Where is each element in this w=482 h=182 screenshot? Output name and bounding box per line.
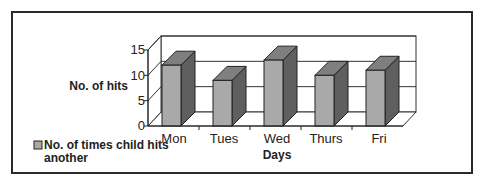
bar-chart: 0 5 10 15 No. of hits Mon Tues Wed Thurs…	[0, 0, 482, 182]
y-tick-label: 15	[131, 42, 145, 57]
x-tick-label: Wed	[264, 131, 291, 146]
x-tick-label: Thurs	[309, 131, 343, 146]
legend-label-line1: No. of times child hits	[44, 138, 169, 152]
y-axis-title: No. of hits	[69, 79, 128, 93]
bar	[315, 75, 334, 126]
y-tick-label: 0	[138, 118, 145, 133]
bar	[213, 80, 232, 126]
y-tick-label: 5	[138, 93, 145, 108]
y-tick-label: 10	[131, 68, 145, 83]
legend-label-line2: another	[44, 151, 88, 165]
x-tick-label: Tues	[210, 131, 239, 146]
bar	[162, 65, 181, 126]
bar	[264, 60, 283, 126]
x-axis-title: Days	[263, 148, 292, 162]
x-tick-label: Fri	[371, 131, 386, 146]
bar	[366, 70, 385, 126]
side-wall	[148, 36, 161, 126]
legend-swatch	[34, 141, 42, 149]
